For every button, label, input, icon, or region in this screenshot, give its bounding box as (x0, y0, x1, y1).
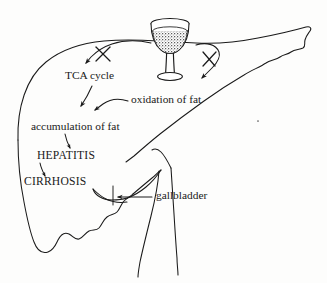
crossed-out-arrow-icon-right (196, 44, 220, 78)
arrow-accumulation-to-hepatitis (65, 134, 70, 148)
liver-diagram-figure: TCA cycle oxidation of fat accumulation … (0, 0, 327, 283)
gallbladder-icon (93, 170, 161, 200)
scan-speck (257, 120, 259, 122)
arrow-oxidation-to-accumulation (95, 99, 128, 110)
crossed-out-arrow-icon-left (86, 41, 151, 63)
label-oxidation-of-fat: oxidation of fat (131, 94, 201, 105)
label-hepatitis: HEPATITIS (37, 150, 95, 162)
bile-duct-neck (152, 149, 171, 168)
label-accumulation-of-fat: accumulation of fat (31, 121, 120, 132)
wine-glass-icon (151, 18, 189, 80)
bile-duct-icon-2 (171, 168, 178, 275)
label-tca-cycle: TCA cycle (65, 70, 114, 81)
label-cirrhosis: CIRRHOSIS (24, 176, 86, 188)
diagram-canvas (0, 0, 327, 283)
arrow-tca-to-accumulation (81, 86, 92, 106)
label-gallbladder: gallbladder (156, 190, 207, 201)
